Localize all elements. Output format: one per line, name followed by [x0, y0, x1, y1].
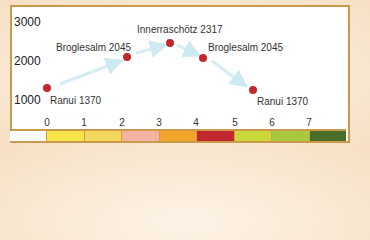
label-ranui-start: Ranui 1370 — [50, 96, 101, 106]
label-broglesalm-down: Broglesalm 2045 — [208, 43, 283, 53]
scale-segment-0 — [10, 131, 47, 141]
scale-segment-4 — [160, 131, 197, 141]
difficulty-color-bar — [10, 129, 346, 141]
scale-segment-2 — [85, 131, 122, 141]
scale-segment-1 — [47, 131, 84, 141]
scale-segment-6 — [235, 131, 272, 141]
point-broglesalm-down — [199, 54, 207, 62]
scale-tick-0: 0 — [44, 118, 50, 128]
scale-tick-4: 4 — [193, 118, 199, 128]
label-innerraschoetz: Innerraschötz 2317 — [137, 25, 223, 35]
scale-tick-7: 7 — [306, 118, 312, 128]
scale-tick-3: 3 — [156, 118, 162, 128]
scale-segment-7 — [272, 131, 309, 141]
scale-tick-2: 2 — [119, 118, 125, 128]
scale-segment-3 — [122, 131, 159, 141]
point-ranui-end — [249, 86, 257, 94]
label-broglesalm-up: Broglesalm 2045 — [56, 43, 131, 53]
scale-tick-5: 5 — [232, 118, 238, 128]
scale-tick-6: 6 — [269, 118, 275, 128]
point-broglesalm-up — [123, 53, 131, 61]
scale-segment-5 — [197, 131, 234, 141]
scale-segment-8 — [310, 131, 346, 141]
point-ranui-start — [43, 84, 51, 92]
scale-tick-1: 1 — [81, 118, 87, 128]
label-ranui-end: Ranui 1370 — [257, 97, 308, 107]
route-arrows — [0, 0, 370, 148]
point-innerraschoetz — [166, 39, 174, 47]
